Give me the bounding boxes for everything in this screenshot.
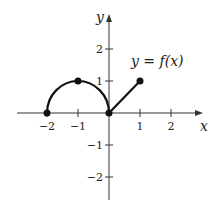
x-axis-arrow-icon [195, 110, 203, 116]
y-tick-label: −1 [87, 139, 103, 152]
y-tick-label: 1 [96, 75, 103, 88]
point-marker [137, 78, 144, 85]
y-axis-arrow-icon [106, 14, 112, 22]
point-marker [75, 78, 82, 85]
y-tick-label: 2 [96, 43, 103, 56]
x-tick-label: 2 [168, 120, 175, 133]
line-segment [109, 81, 140, 113]
y-tick-label: −2 [87, 171, 103, 184]
point-marker [106, 110, 113, 117]
function-graph: −2 −1 1 2 2 1 −1 −2 x y y = f(x) [0, 0, 217, 217]
x-tick-label: −1 [70, 120, 86, 133]
point-marker [44, 110, 51, 117]
x-axis-label: x [200, 118, 208, 134]
x-tick-label: −2 [39, 120, 55, 133]
function-label: y = f(x) [130, 53, 184, 69]
x-tick-label: 1 [137, 120, 144, 133]
y-axis-label: y [95, 9, 105, 25]
